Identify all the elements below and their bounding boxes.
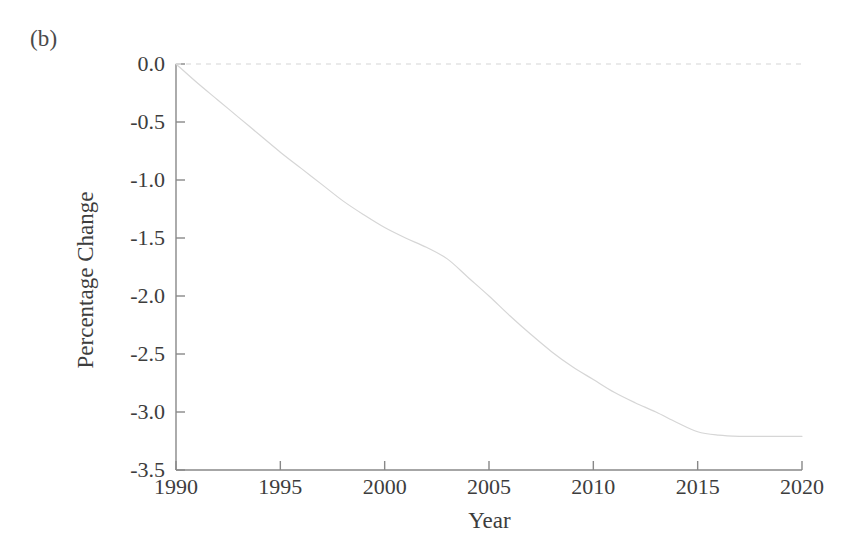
x-axis-title: Year [176, 508, 803, 534]
x-tick-label: 2005 [467, 474, 511, 500]
x-axis-tick-labels: 1990199520002005201020152020 [0, 0, 842, 555]
x-tick-label: 2020 [780, 474, 824, 500]
x-tick-label: 2000 [363, 474, 407, 500]
y-axis-title: Percentage Change [73, 130, 99, 430]
line-chart-figure: 0.0-0.5-1.0-1.5-2.0-2.5-3.0-3.5 19901995… [0, 0, 842, 555]
x-tick-label: 1995 [258, 474, 302, 500]
x-tick-label: 2010 [571, 474, 615, 500]
x-tick-label: 1990 [154, 474, 198, 500]
x-tick-label: 2015 [676, 474, 720, 500]
